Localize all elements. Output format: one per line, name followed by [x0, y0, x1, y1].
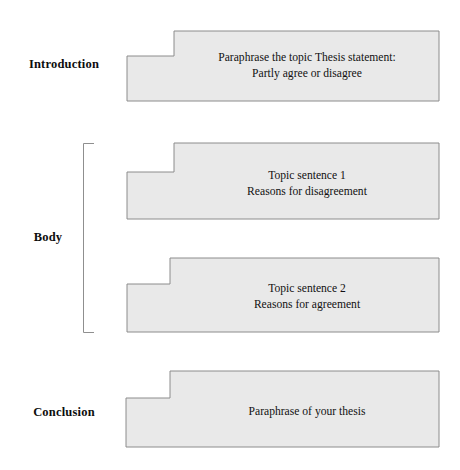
body-bracket-path: [84, 144, 95, 333]
block-introduction: [126, 30, 440, 102]
section-label-conclusion: Conclusion: [0, 406, 128, 419]
block-body-1: [126, 142, 440, 220]
block-introduction-shape: [127, 31, 439, 101]
block-body-2: [126, 257, 440, 333]
block-body-2-shape: [127, 258, 439, 332]
essay-structure-diagram: Introduction Paraphrase the topic Thesis…: [0, 0, 460, 470]
block-conclusion: [125, 370, 440, 448]
body-bracket: [80, 142, 98, 334]
block-conclusion-shape: [126, 371, 439, 447]
block-body-1-shape: [127, 143, 439, 219]
section-label-introduction: Introduction: [0, 58, 128, 71]
